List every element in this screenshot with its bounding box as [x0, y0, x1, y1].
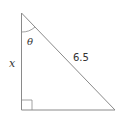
side-x-label: x	[9, 57, 16, 70]
right-angle-marker	[22, 100, 33, 110]
triangle-diagram: θ x 6.5	[0, 0, 116, 118]
angle-theta-label: θ	[27, 36, 33, 47]
right-triangle	[22, 13, 116, 110]
angle-arc	[22, 27, 36, 32]
hypotenuse-label: 6.5	[73, 52, 89, 63]
